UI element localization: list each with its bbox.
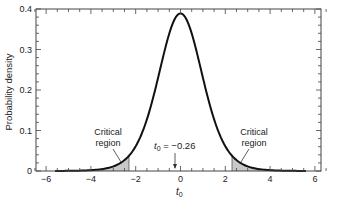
t0-annotation: t0 = −0.26 <box>154 140 195 152</box>
x-tick-label: −6 <box>41 174 51 184</box>
critical-region-right-label-2: region <box>241 138 266 148</box>
x-tick-label: −2 <box>131 174 141 184</box>
critical-left-pointer <box>113 149 121 162</box>
critical-region-left-label: Critical <box>94 127 122 137</box>
x-tick-label: 2 <box>223 174 228 184</box>
x-tick-label: 4 <box>268 174 273 184</box>
y-tick-label: 0.3 <box>19 45 32 55</box>
critical-region-right-label: Critical <box>240 127 268 137</box>
x-axis-ticks: −6−4−20246 <box>35 9 326 184</box>
y-tick-label: 0.1 <box>19 126 32 136</box>
y-tick-label: 0.2 <box>19 85 32 95</box>
critical-right-pointer <box>241 149 249 162</box>
critical-region-left-label-2: region <box>95 138 120 148</box>
y-tick-label: 0.4 <box>19 4 32 14</box>
t0-arrow-head <box>173 164 177 169</box>
x-tick-label: −4 <box>86 174 96 184</box>
t-distribution-chart: −6−4−20246 00.10.20.30.4 Probability den… <box>0 0 339 204</box>
x-axis-label: t0 <box>176 186 183 198</box>
y-tick-label: 0 <box>27 166 32 176</box>
x-tick-label: 0 <box>178 174 183 184</box>
y-axis-label: Probability density <box>3 53 14 130</box>
x-tick-label: 6 <box>312 174 317 184</box>
